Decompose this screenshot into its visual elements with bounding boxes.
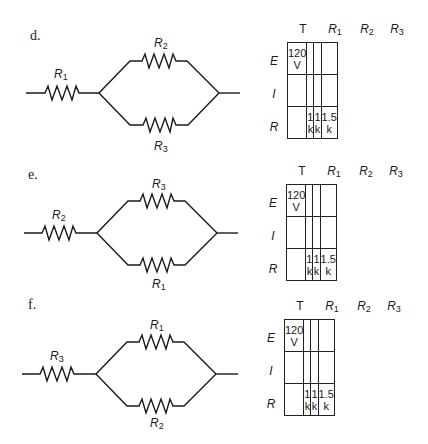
cell-R-R1: 1 k bbox=[306, 249, 313, 281]
cell-R-R2: 1 k bbox=[311, 384, 318, 416]
cell-R-R3: 1.5 k bbox=[318, 384, 334, 416]
row-header: E bbox=[268, 54, 280, 68]
series-parallel-circuit bbox=[0, 290, 260, 444]
series-resistor-label: R2 bbox=[52, 209, 66, 224]
values-grid: 120 V 1 k 1 k 1.5 k bbox=[286, 184, 337, 281]
cell-I-T bbox=[288, 75, 307, 107]
table-row: 1 k 1 k 1.5 k bbox=[287, 249, 337, 281]
row-header: I bbox=[265, 364, 277, 378]
table-row: 1 k 1 k 1.5 k bbox=[288, 107, 338, 139]
upper-branch-wire bbox=[97, 194, 217, 233]
cell-R-R1: 1 k bbox=[304, 384, 311, 416]
cell-E-R2 bbox=[311, 320, 318, 352]
table-row: 120 V bbox=[287, 185, 337, 217]
problem-e: e. R2 R3 R1 T R1 R2 R3 E I R 120 V bbox=[0, 143, 428, 291]
col-header: T bbox=[287, 164, 317, 178]
col-header: R2 bbox=[351, 164, 381, 179]
values-grid: 120 V 1 k 1 k 1.5 k bbox=[287, 42, 338, 139]
resistor-series-icon bbox=[22, 367, 96, 381]
col-header: T bbox=[288, 22, 318, 36]
cell-I-T bbox=[287, 217, 306, 249]
cell-I-R1 bbox=[306, 217, 313, 249]
cell-E-R2 bbox=[314, 43, 321, 75]
resistor-series-icon bbox=[26, 86, 99, 100]
cell-I-R3 bbox=[321, 75, 337, 107]
col-header: T bbox=[285, 299, 315, 313]
series-resistor-label: R3 bbox=[50, 350, 64, 365]
cell-I-T bbox=[285, 352, 304, 384]
cell-R-R2: 1 k bbox=[313, 249, 320, 281]
table-row bbox=[288, 75, 338, 107]
col-header: R1 bbox=[317, 299, 347, 314]
table-row bbox=[287, 217, 337, 249]
cell-E-R1 bbox=[306, 185, 313, 217]
cell-E-R3 bbox=[320, 185, 336, 217]
row-header: I bbox=[267, 229, 279, 243]
table-row: 120 V bbox=[285, 320, 335, 352]
cell-I-R2 bbox=[314, 75, 321, 107]
upper-resistor-label: R3 bbox=[152, 178, 166, 193]
series-resistor-label: R1 bbox=[54, 68, 68, 83]
series-parallel-circuit bbox=[0, 143, 260, 291]
lower-branch-wire bbox=[99, 93, 219, 132]
values-grid: 120 V 1 k 1 k 1.5 k bbox=[284, 319, 335, 416]
cell-I-R1 bbox=[304, 352, 311, 384]
row-header: E bbox=[265, 331, 277, 345]
upper-resistor-label: R1 bbox=[150, 319, 164, 334]
lower-branch-wire bbox=[96, 374, 216, 413]
upper-resistor-label: R2 bbox=[154, 37, 168, 52]
problem-f: f. R3 R1 R2 T R1 R2 R3 E I R 120 V bbox=[0, 290, 428, 438]
cell-E-R3 bbox=[321, 43, 337, 75]
col-header: R2 bbox=[352, 22, 382, 37]
cell-E-T: 120 V bbox=[285, 320, 304, 352]
upper-branch-wire bbox=[99, 54, 219, 93]
cell-E-R2 bbox=[313, 185, 320, 217]
col-header: R3 bbox=[382, 22, 412, 37]
cell-I-R2 bbox=[311, 352, 318, 384]
cell-I-R2 bbox=[313, 217, 320, 249]
cell-I-R1 bbox=[307, 75, 314, 107]
cell-R-R3: 1.5 k bbox=[321, 107, 337, 139]
problem-d: d. R1 R2 R3 T R1 R2 R3 E I R 120 V bbox=[0, 0, 428, 148]
col-header: R3 bbox=[381, 164, 411, 179]
cell-E-R1 bbox=[307, 43, 314, 75]
cell-R-R2: 1 k bbox=[314, 107, 321, 139]
row-header: I bbox=[268, 87, 280, 101]
row-header: E bbox=[267, 196, 279, 210]
cell-E-T: 120 V bbox=[287, 185, 306, 217]
lower-resistor-label: R2 bbox=[150, 417, 164, 432]
table-row: 120 V bbox=[288, 43, 338, 75]
cell-E-R3 bbox=[318, 320, 334, 352]
cell-R-R1: 1 k bbox=[307, 107, 314, 139]
cell-R-R3: 1.5 k bbox=[320, 249, 336, 281]
cell-E-T: 120 V bbox=[288, 43, 307, 75]
cell-R-T bbox=[287, 249, 306, 281]
cell-E-R1 bbox=[304, 320, 311, 352]
upper-branch-wire bbox=[96, 335, 216, 374]
resistor-series-icon bbox=[24, 226, 97, 240]
col-header: R1 bbox=[319, 164, 349, 179]
row-header: R bbox=[268, 120, 280, 134]
row-header: R bbox=[267, 262, 279, 276]
lower-branch-wire bbox=[97, 233, 217, 272]
cell-R-T bbox=[285, 384, 304, 416]
col-header: R2 bbox=[349, 299, 379, 314]
cell-I-R3 bbox=[320, 217, 336, 249]
cell-I-R3 bbox=[318, 352, 334, 384]
table-row: 1 k 1 k 1.5 k bbox=[285, 384, 335, 416]
series-parallel-circuit bbox=[0, 0, 260, 148]
row-header: R bbox=[265, 397, 277, 411]
cell-R-T bbox=[288, 107, 307, 139]
col-header: R3 bbox=[379, 299, 409, 314]
table-row bbox=[285, 352, 335, 384]
col-header: R1 bbox=[320, 22, 350, 37]
